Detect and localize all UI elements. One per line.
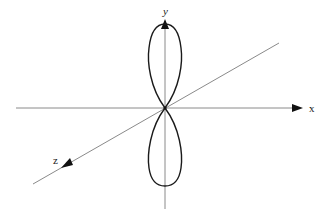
z-axis-label: z	[53, 154, 58, 166]
z-axis	[33, 43, 279, 184]
y-axis	[161, 19, 169, 209]
origin-point	[163, 106, 166, 109]
x-axis-label: x	[309, 102, 315, 114]
x-axis	[16, 104, 303, 112]
z-axis-arrow-icon	[61, 158, 73, 168]
diagram-canvas: y x z	[0, 0, 327, 214]
y-axis-label: y	[162, 5, 168, 17]
x-axis-arrow-icon	[292, 104, 303, 112]
